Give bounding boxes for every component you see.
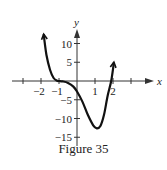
curve-arrowheads bbox=[42, 34, 116, 68]
svg-text:5: 5 bbox=[67, 56, 73, 68]
svg-text:10: 10 bbox=[61, 38, 73, 50]
svg-text:−2: −2 bbox=[33, 85, 45, 97]
y-axis-arrow-icon bbox=[74, 29, 80, 38]
svg-text:−5: −5 bbox=[60, 94, 72, 106]
svg-text:2: 2 bbox=[110, 85, 116, 97]
tick-labels: xy−2−112−15−10−5510 bbox=[33, 16, 162, 143]
y-axis-label: y bbox=[73, 16, 79, 28]
svg-text:1: 1 bbox=[92, 85, 98, 97]
x-axis-arrow-icon bbox=[145, 78, 154, 84]
figure-caption: Figure 35 bbox=[0, 141, 167, 157]
x-axis-label: x bbox=[156, 75, 162, 87]
svg-text:−10: −10 bbox=[55, 113, 73, 125]
